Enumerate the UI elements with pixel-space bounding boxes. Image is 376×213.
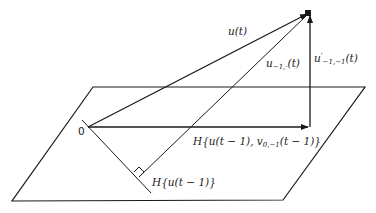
label-residual-tail: (t) (345, 52, 357, 64)
label-projection: H{u(t − 1), v0,−1(t − 1)} (193, 136, 321, 149)
label-u-minus-sub: −1,· (273, 63, 288, 71)
label-u-minus-tail: (t) (288, 57, 300, 69)
label-projection-main: H{u(t − 1), v (193, 135, 263, 147)
subspace-line (82, 120, 151, 193)
label-origin: 0 (78, 126, 85, 137)
label-u-t: u(t) (228, 26, 247, 37)
vector-u-minus (139, 15, 307, 177)
label-residual: u′−1,−1(t) (314, 52, 358, 66)
label-projection-tail: (t − 1)} (280, 135, 321, 147)
label-subspace: H{u(t − 1)} (152, 177, 216, 188)
label-residual-sub: −1,−1 (323, 58, 346, 66)
label-residual-main: u (314, 52, 321, 64)
apex-point (305, 10, 311, 16)
label-u-minus: u−1,·(t) (266, 58, 300, 71)
label-u-minus-main: u (266, 57, 273, 69)
label-projection-sub: 0,−1 (263, 141, 280, 149)
right-angle-marker (134, 167, 144, 177)
